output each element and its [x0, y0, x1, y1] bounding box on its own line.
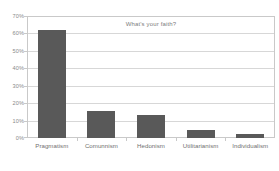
bar-hedonism[interactable]: [137, 115, 165, 138]
bar-slot: [176, 16, 226, 138]
bar-comunnism[interactable]: [87, 111, 115, 138]
y-axis: 70% 60% 50% 40% 30% 20% 10% 0%: [0, 16, 24, 138]
x-tick-label-individualism: Individualism: [225, 141, 275, 150]
bar-utilitarianism[interactable]: [187, 130, 215, 138]
bar-slot: [126, 16, 176, 138]
y-tick-label: 20%: [0, 100, 24, 106]
bar-individualism[interactable]: [236, 134, 264, 138]
y-tick-label: 40%: [0, 65, 24, 71]
bar-slot: [77, 16, 127, 138]
y-tick-label: 10%: [0, 118, 24, 124]
x-tick-label-comunnism: Comunnism: [77, 141, 127, 150]
bar-pragmatism[interactable]: [38, 30, 66, 138]
y-tick-label: 60%: [0, 30, 24, 36]
x-tick-label-utilitarianism: Utilitarianism: [176, 141, 226, 150]
x-axis: Pragmatism Comunnism Hedonism Utilitaria…: [27, 141, 275, 157]
bars-layer: [27, 16, 275, 138]
bar-slot: [225, 16, 275, 138]
y-tick-label: 30%: [0, 83, 24, 89]
y-tick-label: 50%: [0, 48, 24, 54]
x-tick-label-hedonism: Hedonism: [126, 141, 176, 150]
bar-slot: [27, 16, 77, 138]
bar-chart: 70% 60% 50% 40% 30% 20% 10% 0% What's yo…: [0, 0, 279, 171]
x-tick-label-pragmatism: Pragmatism: [27, 141, 77, 150]
y-tick-label: 0%: [0, 135, 24, 141]
y-tick-label: 70%: [0, 13, 24, 19]
